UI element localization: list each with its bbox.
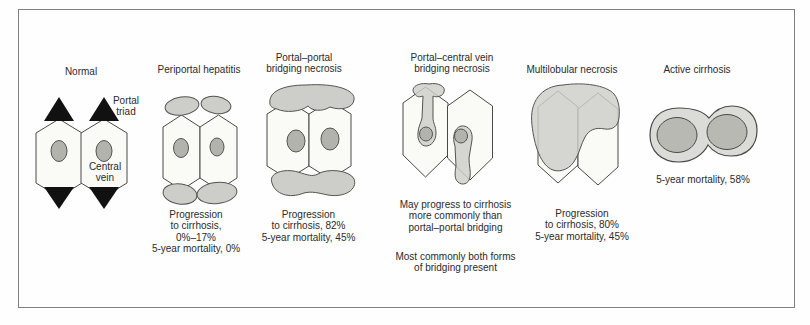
bridging-necrosis-bottom-blob bbox=[271, 171, 354, 196]
central-vein-left bbox=[420, 127, 433, 141]
panel-title-portal-central: Portal–central vein bridging necrosis bbox=[397, 52, 507, 74]
caption-line: Progression bbox=[136, 209, 256, 220]
caption-line: of bridging present bbox=[388, 262, 523, 273]
central-vein-label-line2: vein bbox=[96, 172, 114, 183]
title-line1: Portal–central vein bbox=[397, 52, 507, 63]
periportal-necrosis-bottom-left bbox=[162, 182, 198, 207]
active-cirrhosis-diagram bbox=[645, 96, 765, 174]
caption-active-cirrhosis: 5-year mortality, 58% bbox=[642, 174, 764, 185]
central-vein-left bbox=[51, 141, 67, 162]
panel-title-periportal-hepatitis: Periportal hepatitis bbox=[149, 64, 249, 75]
central-vein-right bbox=[455, 129, 468, 143]
title-line2: bridging necrosis bbox=[254, 63, 354, 74]
caption-line: May progress to cirrhosis bbox=[388, 199, 523, 210]
caption-multilobular: Progression to cirrhosis, 80% 5-year mor… bbox=[521, 208, 643, 242]
periportal-necrosis-top-right bbox=[200, 94, 232, 115]
portal-triad-top-left-icon bbox=[44, 97, 74, 121]
portal-triad-label-line2: triad bbox=[116, 106, 135, 117]
caption-line: more commonly than bbox=[388, 210, 523, 221]
panel-title-portal-portal: Portal–portal bridging necrosis bbox=[254, 52, 354, 74]
panel-title-normal: Normal bbox=[31, 66, 131, 77]
central-vein-right bbox=[321, 128, 339, 150]
central-vein-right bbox=[96, 141, 112, 162]
title-line2: bridging necrosis bbox=[397, 63, 507, 74]
periportal-necrosis-bottom-right bbox=[196, 180, 238, 205]
periportal-hepatitis-diagram bbox=[155, 93, 250, 208]
caption-line: 5-year mortality, 0% bbox=[136, 243, 256, 254]
caption-periportal: Progression to cirrhosis, 0%–17% 5-year … bbox=[136, 209, 256, 254]
central-vein-right bbox=[210, 138, 224, 156]
caption-line: Progression bbox=[521, 208, 643, 219]
multilobular-necrosis-diagram bbox=[525, 80, 630, 192]
regenerative-nodule-left bbox=[657, 118, 697, 153]
caption-line: to cirrhosis, 82% bbox=[246, 220, 371, 231]
figure-page: Normal Portal triad Central vein Peripor… bbox=[0, 0, 810, 325]
caption-line: portal–portal bridging bbox=[388, 222, 523, 233]
caption-line: 5-year mortality, 58% bbox=[642, 174, 764, 185]
caption-portal-central-1: May progress to cirrhosis more commonly … bbox=[388, 199, 523, 233]
portal-central-bridging-diagram bbox=[398, 78, 513, 190]
central-vein-left bbox=[287, 130, 305, 152]
central-vein-left bbox=[174, 139, 189, 158]
caption-line: 0%–17% bbox=[136, 232, 256, 243]
caption-line: 5-year mortality, 45% bbox=[246, 232, 371, 243]
caption-line: 5-year mortality, 45% bbox=[521, 231, 643, 242]
portal-triad-label-line1: Portal bbox=[113, 95, 139, 106]
normal-lobule-diagram: Portal triad Central vein bbox=[30, 90, 145, 215]
bridging-necrosis-top-blob bbox=[270, 85, 354, 112]
periportal-necrosis-top-left bbox=[164, 95, 200, 118]
caption-portal-central-2: Most commonly both forms of bridging pre… bbox=[388, 251, 523, 274]
caption-portal-portal: Progression to cirrhosis, 82% 5-year mor… bbox=[246, 209, 371, 243]
caption-line: Most commonly both forms bbox=[388, 251, 523, 262]
regenerative-nodule-right bbox=[707, 115, 747, 150]
portal-portal-bridging-diagram bbox=[260, 82, 365, 207]
caption-line: to cirrhosis, 80% bbox=[521, 219, 643, 230]
portal-triad-bottom-left-icon bbox=[44, 187, 74, 209]
panel-title-active-cirrhosis: Active cirrhosis bbox=[647, 64, 747, 75]
panel-title-multilobular: Multilobular necrosis bbox=[517, 64, 627, 75]
central-vein-label-line1: Central bbox=[89, 161, 121, 172]
portal-triad-bottom-right-icon bbox=[89, 187, 119, 209]
title-line1: Portal–portal bbox=[254, 52, 354, 63]
caption-line: to cirrhosis, bbox=[136, 220, 256, 231]
caption-line: Progression bbox=[246, 209, 371, 220]
